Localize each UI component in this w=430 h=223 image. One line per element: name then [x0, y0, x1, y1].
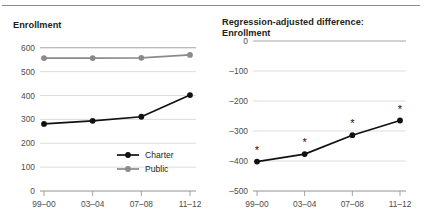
y-axis-label-300: 300 — [21, 114, 35, 124]
figure-container: Enrollment 010020030040050060099–0003–04… — [0, 0, 430, 223]
data-point-regression-adjusted-difference-3 — [397, 118, 403, 124]
x-axis-label-0: 99–00 — [32, 199, 56, 209]
y-axis-label-100: 100 — [21, 162, 35, 172]
x-axis-label-2: 07–08 — [341, 199, 365, 209]
legend-marker-charter — [125, 152, 131, 158]
data-point-regression-adjusted-difference-2 — [349, 132, 355, 138]
data-point-charter-0 — [41, 121, 47, 127]
chart-panel-enrollment: Enrollment 010020030040050060099–0003–04… — [0, 0, 215, 223]
data-point-public-0 — [41, 55, 47, 61]
series-line-public — [44, 55, 190, 58]
chart-panel-regression-difference: Regression-adjusted difference: Enrollme… — [215, 0, 430, 223]
y-axis-label-0: 0 — [30, 186, 35, 196]
y-axis-label--500: –500 — [229, 186, 248, 196]
data-point-public-3 — [187, 52, 193, 58]
y-axis-label-400: 400 — [21, 91, 35, 101]
y-axis-label--400: –400 — [229, 156, 248, 166]
y-axis-label-500: 500 — [21, 67, 35, 77]
data-point-public-2 — [138, 55, 144, 61]
data-point-charter-1 — [90, 118, 96, 124]
y-axis-label-600: 600 — [21, 43, 35, 53]
x-axis-label-3: 11–12 — [389, 199, 412, 209]
y-axis-label--300: –300 — [229, 126, 248, 136]
significance-star-2: * — [350, 117, 355, 129]
data-point-charter-2 — [138, 114, 144, 120]
series-line-regression-adjusted-difference — [257, 121, 400, 162]
data-point-regression-adjusted-difference-1 — [302, 151, 308, 157]
legend-label-public: Public — [145, 164, 169, 174]
y-axis-label-200: 200 — [21, 138, 35, 148]
x-axis-label-0: 99–00 — [245, 199, 269, 209]
y-axis-label--200: –200 — [229, 96, 248, 106]
data-point-public-1 — [90, 55, 96, 61]
x-axis-label-2: 07–08 — [130, 199, 154, 209]
significance-star-1: * — [303, 136, 308, 148]
data-point-regression-adjusted-difference-0 — [254, 159, 260, 165]
chart-title-enrollment: Enrollment — [13, 20, 61, 31]
y-axis-label--100: –100 — [229, 66, 248, 76]
significance-star-3: * — [398, 103, 403, 115]
significance-star-0: * — [255, 144, 260, 156]
legend-marker-public — [125, 166, 131, 172]
chart-svg-enrollment: 010020030040050060099–0003–0407–0811–12C… — [0, 0, 215, 223]
data-point-charter-3 — [187, 92, 193, 98]
legend-label-charter: Charter — [145, 150, 174, 160]
chart-title-regression-difference: Regression-adjusted difference: Enrollme… — [222, 17, 364, 39]
x-axis-label-1: 03–04 — [81, 199, 105, 209]
x-axis-label-3: 11–12 — [179, 199, 202, 209]
x-axis-label-1: 03–04 — [293, 199, 317, 209]
